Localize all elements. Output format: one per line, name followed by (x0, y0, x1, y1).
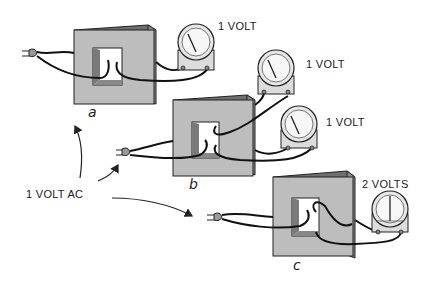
meter-c-reading: 2 VOLTS (362, 178, 409, 190)
source-label: 1 VOLT AC (26, 188, 83, 200)
plug-a-icon (22, 49, 37, 57)
voltmeter-b1-icon (258, 50, 294, 94)
transformer-b (173, 95, 255, 176)
caption-c: c (293, 257, 301, 273)
voltmeter-a-icon (178, 24, 214, 70)
transformer-a (74, 25, 156, 104)
transformer-diagram: 1 VOLT 1 VOLT 1 VOLT 2 VOLTS a b c 1 VOL… (0, 0, 430, 282)
meter-b1-reading: 1 VOLT (306, 58, 345, 70)
caption-b: b (189, 176, 198, 192)
plug-c-icon (207, 213, 222, 221)
plug-b-icon (116, 148, 130, 156)
meter-a-reading: 1 VOLT (218, 20, 257, 32)
voltmeter-b2-icon (281, 106, 317, 150)
caption-a: a (88, 104, 97, 120)
meter-b2-reading: 1 VOLT (326, 116, 365, 128)
diagram-drawing (0, 0, 430, 282)
voltmeter-c-icon (372, 191, 408, 234)
